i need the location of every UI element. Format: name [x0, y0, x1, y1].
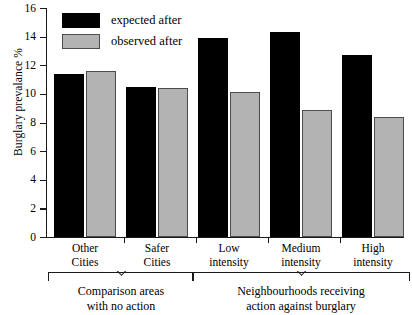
- bar-high-intensity-expected: [342, 55, 372, 237]
- y-axis-title: Burglary prevalance %: [12, 12, 24, 192]
- legend-swatch-observed-icon: [62, 34, 100, 49]
- action-bracket-caption: Neighbourhoods receiving action against …: [201, 284, 401, 313]
- y-tick-0: 0: [40, 237, 47, 238]
- y-tick-label-8: 8: [30, 115, 36, 129]
- y-tick-16: 16: [40, 8, 47, 9]
- x-label-line1: High: [331, 242, 412, 256]
- bar-medium-intensity-observed: [302, 110, 332, 237]
- bar-high-intensity-observed: [374, 117, 404, 237]
- bar-medium-intensity-expected: [270, 32, 300, 237]
- x-label-line2: intensity: [331, 256, 412, 270]
- chart-legend: expected after observed after: [62, 10, 182, 52]
- legend-item-expected: expected after: [62, 10, 182, 31]
- y-tick-label-10: 10: [25, 86, 37, 100]
- legend-item-observed: observed after: [62, 31, 182, 52]
- comparison-bracket-tip-icon: [115, 271, 128, 279]
- x-axis-line: [46, 237, 404, 238]
- action-bracket-tip-icon: [295, 271, 308, 279]
- legend-label-expected: expected after: [111, 13, 181, 28]
- bar-low-intensity-expected: [198, 38, 228, 237]
- legend-label-observed: observed after: [111, 34, 182, 49]
- y-tick-label-12: 12: [25, 58, 37, 72]
- bar-chart-figure: Burglary prevalance % 1614121086420 expe…: [0, 0, 412, 315]
- action-caption-line2: action against burglary: [201, 299, 401, 314]
- bar-other-cities-observed: [86, 71, 116, 237]
- comparison-bracket-caption: Comparison areas with no action: [31, 284, 211, 313]
- y-tick-4: 4: [40, 180, 47, 181]
- legend-swatch-expected-icon: [62, 13, 100, 28]
- bar-low-intensity-observed: [230, 92, 260, 237]
- y-tick-label-6: 6: [30, 144, 36, 158]
- y-tick-8: 8: [40, 123, 47, 124]
- y-tick-label-16: 16: [25, 1, 37, 15]
- bar-safer-cities-observed: [158, 88, 188, 237]
- bar-other-cities-expected: [54, 74, 84, 237]
- y-tick-12: 12: [40, 65, 47, 66]
- y-tick-10: 10: [40, 94, 47, 95]
- x-axis-label-high-intensity: Highintensity: [331, 242, 412, 269]
- y-tick-2: 2: [40, 208, 47, 209]
- y-tick-label-0: 0: [30, 230, 36, 244]
- comparison-caption-line2: with no action: [31, 299, 211, 314]
- y-tick-label-4: 4: [30, 172, 36, 186]
- y-tick-14: 14: [40, 37, 47, 38]
- y-tick-label-14: 14: [25, 29, 37, 43]
- action-caption-line1: Neighbourhoods receiving: [201, 284, 401, 299]
- y-tick-6: 6: [40, 151, 47, 152]
- bar-safer-cities-expected: [126, 87, 156, 237]
- comparison-caption-line1: Comparison areas: [31, 284, 211, 299]
- y-tick-label-2: 2: [30, 201, 36, 215]
